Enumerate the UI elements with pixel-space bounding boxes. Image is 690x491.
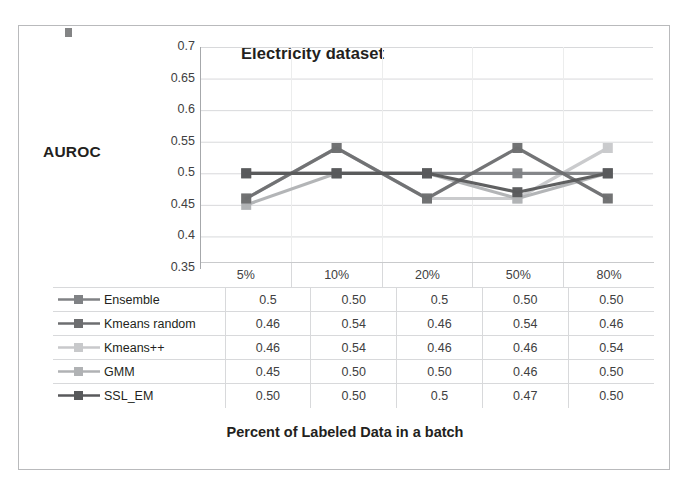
table-cell: 0.46 <box>482 336 568 360</box>
y-axis-tick-label: 0.45 <box>143 198 195 211</box>
y-axis-tick-label: 0.55 <box>143 135 195 148</box>
x-axis-tick-label: 50% <box>473 263 564 288</box>
x-axis-tick-label: 80% <box>564 263 654 288</box>
data-table: 5%10%20%50%80%Ensemble0.50.500.50.500.50… <box>53 287 654 408</box>
y-axis-tick-label: 0.4 <box>143 229 195 242</box>
chart-figure-frame: Electricity dataset AUROC 0.350.40.450.5… <box>18 25 670 470</box>
table-row: Kmeans++0.460.540.460.460.54 <box>53 336 654 360</box>
scan-artifact-speck <box>65 28 72 37</box>
series-marker <box>422 194 432 204</box>
legend-entry: Kmeans++ <box>53 336 225 360</box>
series-marker <box>603 168 613 178</box>
table-row: SSL_EM0.500.500.50.470.50 <box>53 384 654 408</box>
table-cell: 0.50 <box>568 384 654 408</box>
series-marker <box>241 168 251 178</box>
x-axis-category-row: 5%10%20%50%80% <box>201 262 654 288</box>
legend-swatch-icon <box>57 294 101 305</box>
table-cell: 0.46 <box>225 312 311 336</box>
legend-entry: Kmeans random <box>53 312 225 336</box>
legend-entry: GMM <box>53 360 225 384</box>
x-axis-tick-label: 20% <box>383 263 474 288</box>
table-cell: 0.50 <box>311 360 397 384</box>
series-canvas <box>201 47 653 268</box>
table-cell: 0.50 <box>225 384 311 408</box>
data-table-body: 5%10%20%50%80%Ensemble0.50.500.50.500.50… <box>53 288 654 408</box>
table-cell: 0.5 <box>397 288 483 312</box>
table-cell: 0.45 <box>225 360 311 384</box>
x-axis-tick-label: 10% <box>292 263 383 288</box>
y-axis-tick-label: 0.35 <box>143 261 195 274</box>
table-cell: 0.46 <box>397 336 483 360</box>
table-cell: 0.46 <box>397 312 483 336</box>
series-marker <box>603 143 613 153</box>
y-axis-tick-label: 0.7 <box>143 40 195 53</box>
table-cell: 0.5 <box>397 384 483 408</box>
x-axis-tick-label: 5% <box>201 263 292 288</box>
y-axis-title: AUROC <box>43 143 101 161</box>
table-row: Kmeans random0.460.540.460.540.46 <box>53 312 654 336</box>
table-cell: 0.54 <box>311 336 397 360</box>
series-marker <box>332 143 342 153</box>
table-cell: 0.54 <box>482 312 568 336</box>
legend-label: SSL_EM <box>104 389 153 403</box>
table-cell: 0.46 <box>225 336 311 360</box>
legend-swatch-icon <box>57 318 101 329</box>
series-marker <box>512 143 522 153</box>
series-marker <box>422 168 432 178</box>
legend-swatch-icon <box>57 390 101 401</box>
table-cell: 0.47 <box>482 384 568 408</box>
legend-label: GMM <box>104 365 135 379</box>
table-cell: 0.50 <box>568 288 654 312</box>
table-cell: 0.46 <box>482 360 568 384</box>
table-cell: 0.50 <box>397 360 483 384</box>
table-cell: 0.54 <box>568 336 654 360</box>
legend-swatch-icon <box>57 366 101 377</box>
series-marker <box>603 194 613 204</box>
legend-entry: SSL_EM <box>53 384 225 408</box>
legend-swatch-icon <box>57 342 101 353</box>
table-cell: 0.50 <box>482 288 568 312</box>
y-axis-tick-label: 0.5 <box>143 166 195 179</box>
legend-label: Kmeans random <box>104 317 196 331</box>
y-axis-tick-label: 0.65 <box>143 72 195 85</box>
table-cell: 0.46 <box>568 312 654 336</box>
series-marker <box>332 168 342 178</box>
series-marker <box>512 187 522 197</box>
table-cell: 0.50 <box>311 384 397 408</box>
table-cell: 0.5 <box>225 288 311 312</box>
table-row: Ensemble0.50.500.50.500.50 <box>53 288 654 312</box>
legend-label: Kmeans++ <box>104 341 164 355</box>
y-axis-tick-labels: 0.350.40.450.50.550.60.650.7 <box>139 26 195 306</box>
legend-entry: Ensemble <box>53 288 225 312</box>
plot-area <box>201 47 653 268</box>
legend-label: Ensemble <box>104 293 160 307</box>
table-row: GMM0.450.500.500.460.50 <box>53 360 654 384</box>
y-axis-tick-label: 0.6 <box>143 103 195 116</box>
table-cell: 0.54 <box>311 312 397 336</box>
table-cell: 0.50 <box>311 288 397 312</box>
series-marker <box>241 194 251 204</box>
x-axis-title: Percent of Labeled Data in a batch <box>19 424 671 440</box>
series-marker <box>512 168 522 178</box>
table-cell: 0.50 <box>568 360 654 384</box>
